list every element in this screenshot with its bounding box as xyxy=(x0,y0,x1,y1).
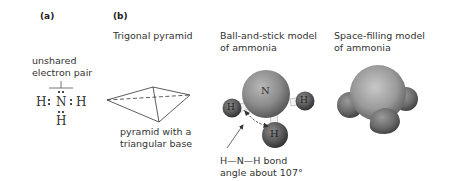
lewis-n-center: N xyxy=(56,95,67,109)
lewis-h-left: H xyxy=(36,95,46,109)
pyramid-caption: pyramid with a triangular base xyxy=(120,126,192,149)
annotation-bracket xyxy=(49,81,73,88)
bond-angle-line-2: angle about 107° xyxy=(220,167,303,179)
ball-and-stick-model xyxy=(223,70,315,148)
space-filling-model xyxy=(337,65,418,134)
atom-label-h-left: H xyxy=(227,102,235,112)
pyramid-caption-line-2: triangular base xyxy=(120,138,192,150)
space-filling-title-line-2: of ammonia xyxy=(334,42,425,54)
bond-angle-line-1: H—N—H bond xyxy=(220,155,303,167)
trigonal-pyramid-drawing xyxy=(107,87,190,122)
panel-b-label: (b) xyxy=(113,11,128,21)
space-filling-title-line-1: Space-filling model xyxy=(334,30,425,42)
atom-label-n: N xyxy=(261,85,270,96)
ball-and-stick-title-line-2: of ammonia xyxy=(220,42,317,54)
atom-label-h-right: H xyxy=(300,95,308,105)
bond-angle-caption: H—N—H bond angle about 107° xyxy=(220,155,303,178)
angle-pointer-arrow xyxy=(227,125,243,148)
space-filling-title: Space-filling model of ammonia xyxy=(334,30,425,53)
ball-and-stick-title: Ball-and-stick model of ammonia xyxy=(220,30,317,53)
ball-and-stick-title-line-1: Ball-and-stick model xyxy=(220,30,317,42)
lewis-h-right: H xyxy=(76,95,86,109)
pyramid-title: Trigonal pyramid xyxy=(113,30,193,42)
atom-label-h-bottom: H xyxy=(270,128,279,139)
pyramid-caption-line-1: pyramid with a xyxy=(120,126,192,138)
diagram-graphics xyxy=(0,0,459,181)
lewis-h-bottom: H xyxy=(56,114,66,128)
